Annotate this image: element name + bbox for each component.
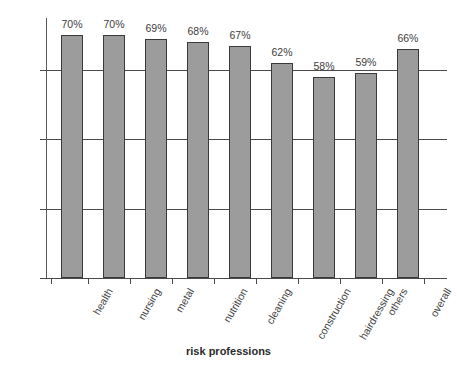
x-axis-tick-mark bbox=[298, 278, 299, 284]
x-axis-tick-mark bbox=[382, 278, 383, 284]
bar-value-label: 68% bbox=[175, 25, 221, 37]
bar-value-label: 58% bbox=[301, 60, 347, 72]
x-axis-tick-mark bbox=[256, 278, 257, 284]
bar bbox=[187, 42, 209, 278]
bar-value-label: 66% bbox=[385, 32, 431, 44]
y-axis-tick-mark bbox=[40, 209, 46, 210]
bar-value-label: 62% bbox=[259, 46, 305, 58]
bar bbox=[397, 49, 419, 278]
x-axis-category-label: nursing bbox=[135, 286, 163, 322]
x-axis-category-label: overall bbox=[427, 286, 453, 319]
bar-value-label: 70% bbox=[49, 18, 95, 30]
x-axis-tick-mark bbox=[214, 278, 215, 284]
x-axis-title: risk professions bbox=[0, 345, 457, 357]
bar-value-label: 59% bbox=[343, 56, 389, 68]
bar-value-label: 70% bbox=[91, 18, 137, 30]
x-axis-tick-mark bbox=[130, 278, 131, 284]
x-axis-category-label: metal bbox=[173, 286, 196, 314]
bar bbox=[103, 35, 125, 278]
x-axis-category-label: cleaning bbox=[264, 286, 294, 326]
bar-chart: 0%20%40%60% healthnursingmetalnutritionc… bbox=[0, 0, 457, 371]
x-axis-category-label: health bbox=[90, 286, 115, 317]
x-axis-tick-mark bbox=[172, 278, 173, 284]
x-axis-tick-mark bbox=[340, 278, 341, 284]
bar bbox=[313, 77, 335, 278]
y-axis-line bbox=[46, 18, 47, 278]
x-axis-category-label: construction bbox=[314, 286, 353, 341]
bar bbox=[355, 73, 377, 278]
y-axis-tick-mark bbox=[40, 139, 46, 140]
y-axis-tick-mark bbox=[40, 278, 46, 279]
y-axis-tick-mark bbox=[40, 70, 46, 71]
x-axis-tick-mark bbox=[424, 278, 425, 284]
x-axis-line bbox=[46, 278, 447, 279]
x-axis-tick-mark bbox=[88, 278, 89, 284]
x-axis-category-label: nutrition bbox=[221, 286, 250, 324]
bar bbox=[229, 46, 251, 278]
bar bbox=[145, 39, 167, 278]
bar bbox=[61, 35, 83, 278]
bar bbox=[271, 63, 293, 278]
x-axis-tick-mark bbox=[51, 278, 52, 284]
bar-value-label: 69% bbox=[133, 22, 179, 34]
bar-value-label: 67% bbox=[217, 29, 263, 41]
